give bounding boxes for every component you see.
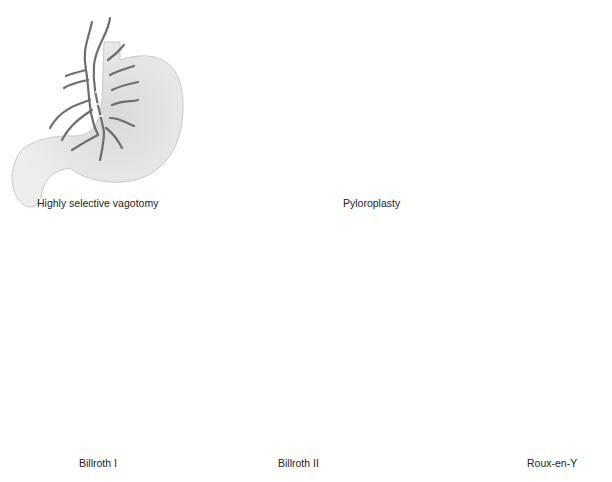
- surgical-procedures-diagram: [0, 0, 612, 482]
- caption-pyloroplasty: Pyloroplasty: [343, 197, 400, 209]
- stomach-hsv: [12, 42, 183, 207]
- caption-billroth-1: Billroth I: [79, 457, 117, 469]
- caption-roux-en-y: Roux-en-Y: [527, 457, 577, 469]
- caption-billroth-2: Billroth II: [278, 457, 319, 469]
- caption-highly-selective-vagotomy: Highly selective vagotomy: [37, 197, 158, 209]
